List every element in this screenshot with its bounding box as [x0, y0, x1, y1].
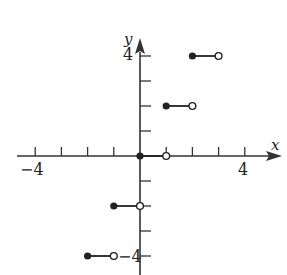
step-function-graph: y x −4 4 4 −4	[0, 0, 287, 275]
y-axis-arrow-icon	[135, 38, 145, 54]
closed-dot-icon	[189, 52, 196, 59]
closed-dot-icon	[110, 202, 117, 209]
open-dot-icon	[110, 253, 117, 260]
step-segment	[163, 102, 196, 109]
open-dot-icon	[189, 103, 196, 110]
y-tick-label-neg4: −4	[118, 247, 142, 266]
step-segment	[136, 152, 169, 159]
open-dot-icon	[215, 53, 222, 60]
step-segment	[84, 252, 117, 259]
x-axis	[17, 147, 282, 161]
closed-dot-icon	[84, 252, 91, 259]
x-tick-label-neg4: −4	[20, 160, 44, 179]
x-axis-label: x	[271, 136, 280, 154]
open-dot-icon	[137, 203, 144, 210]
y-tick-label-4: 4	[123, 45, 133, 64]
closed-dot-icon	[163, 102, 170, 109]
open-dot-icon	[163, 153, 170, 160]
closed-dot-icon	[136, 152, 143, 159]
step-segment	[110, 202, 143, 209]
step-segment	[189, 52, 222, 59]
x-tick-label-4: 4	[238, 160, 248, 179]
